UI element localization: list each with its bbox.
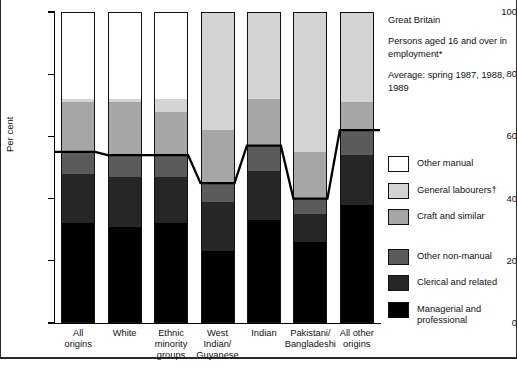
- x-label-line: origins: [65, 339, 92, 349]
- bar-segment: [108, 177, 142, 227]
- bar-segment: [247, 220, 281, 323]
- bar-segment: [154, 155, 188, 177]
- legend-item[interactable]: Other manual: [388, 156, 514, 173]
- legend-item[interactable]: Clerical and related: [388, 275, 514, 292]
- bar-segment: [293, 12, 327, 152]
- bar-segment: [247, 99, 281, 146]
- legend-label: General labourers†: [417, 183, 497, 196]
- legend-swatch: [388, 249, 409, 265]
- x-axis-line: [54, 323, 381, 324]
- bar-segment: [201, 130, 235, 183]
- legend-item[interactable]: Managerial andprofessional: [388, 302, 514, 319]
- legend-swatch: [388, 302, 409, 318]
- bar-segment: [293, 152, 327, 199]
- figure-left-border: [0, 0, 1, 358]
- y-tick-mark: [48, 74, 55, 75]
- bar-segment: [154, 112, 188, 156]
- bar-segment: [108, 102, 142, 155]
- legend-swatch: [388, 275, 409, 291]
- bar-column: [201, 12, 235, 323]
- bar-column: [61, 12, 95, 323]
- x-label-line: White: [113, 328, 137, 338]
- legend-label: Other non-manual: [417, 249, 492, 262]
- bar-column: [293, 12, 327, 323]
- legend-item[interactable]: Craft and similar: [388, 209, 514, 226]
- y-tick-mark: [48, 11, 55, 12]
- bar-segment: [108, 227, 142, 323]
- legend-item[interactable]: Other non-manual: [388, 249, 514, 266]
- bar-segment: [108, 155, 142, 177]
- y-tick-mark: [48, 260, 55, 261]
- bar-segment: [340, 102, 374, 130]
- bar-column: [247, 12, 281, 323]
- bar-segment: [247, 146, 281, 171]
- chart-legend: Other manualGeneral labourers†Craft and …: [388, 156, 514, 328]
- figure-notes: Great Britain Persons aged 16 and over i…: [388, 14, 514, 103]
- legend-label: Other manual: [417, 156, 473, 169]
- bar-segment: [154, 99, 188, 111]
- bar-segment: [247, 12, 281, 99]
- x-label-line: All: [73, 328, 83, 338]
- bar-segment: [201, 202, 235, 252]
- bar-segment: [201, 12, 235, 130]
- legend-label: Clerical and related: [417, 275, 497, 288]
- bar-segment: [61, 152, 95, 174]
- bar-segment: [201, 183, 235, 202]
- figure-bottom-rule: [0, 357, 517, 359]
- legend-swatch: [388, 156, 409, 172]
- legend-swatch: [388, 209, 409, 225]
- bar-segment: [108, 99, 142, 102]
- bar-segment: [61, 102, 95, 152]
- legend-group-spacer: [388, 236, 514, 249]
- x-label-line: Indian/: [204, 339, 232, 349]
- bar-segment: [61, 12, 95, 99]
- x-label-line: Guyanese: [196, 350, 238, 360]
- bar-segment: [61, 99, 95, 102]
- y-tick-label: 60: [473, 131, 517, 140]
- y-tick-mark: [48, 198, 55, 199]
- bar-segment: [201, 251, 235, 323]
- x-axis-label: All otherorigins: [320, 328, 394, 350]
- legend-label: Craft and similar: [417, 209, 485, 222]
- bar-segment: [293, 214, 327, 242]
- bar-segment: [154, 12, 188, 99]
- bar-segment: [340, 12, 374, 102]
- y-tick-mark: [48, 322, 55, 323]
- bar-segment: [61, 223, 95, 323]
- chart-figure: Per cent 020406080100 AlloriginsWhiteEth…: [0, 0, 517, 374]
- y-tick-mark: [48, 136, 55, 137]
- bar-segment: [247, 171, 281, 221]
- bar-segment: [340, 130, 374, 155]
- bar-column: [154, 12, 188, 323]
- note-period: Average: spring 1987, 1988, 1989: [388, 69, 514, 94]
- legend-swatch: [388, 183, 409, 199]
- bar-segment: [61, 174, 95, 224]
- bar-column: [340, 12, 374, 323]
- x-label-line: origins: [343, 339, 370, 349]
- bar-segment: [293, 199, 327, 215]
- stacked-bars: [55, 12, 380, 323]
- legend-label: Managerial andprofessional: [417, 302, 481, 326]
- bar-segment: [154, 177, 188, 224]
- legend-item[interactable]: General labourers†: [388, 183, 514, 200]
- bar-segment: [154, 223, 188, 323]
- x-label-line: West: [207, 328, 228, 338]
- y-axis-title: Per cent: [4, 117, 15, 152]
- note-region: Great Britain: [388, 14, 514, 26]
- bar-column: [108, 12, 142, 323]
- bar-segment: [340, 205, 374, 323]
- bar-segment: [340, 155, 374, 205]
- bar-segment: [293, 242, 327, 323]
- bar-segment: [108, 12, 142, 99]
- x-label-line: All other: [340, 328, 374, 338]
- note-population: Persons aged 16 and over in employment*: [388, 35, 514, 60]
